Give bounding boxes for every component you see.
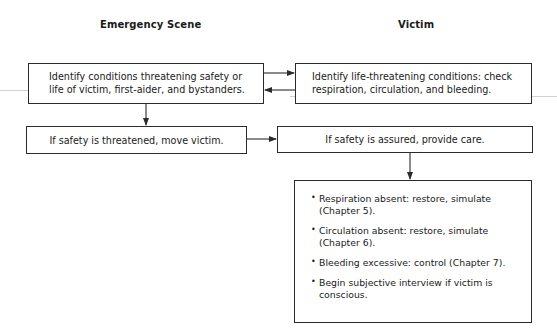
box-text-line: Identify conditions threatening safety o… [49, 70, 263, 83]
care-step-line: Begin subjective interview if victim is [319, 277, 521, 289]
care-step-line: Respiration absent: restore, simulate [319, 193, 521, 205]
box-identify-life-threatening: Identify life-threatening conditions: ch… [295, 63, 532, 104]
bullet-icon: • [311, 256, 316, 268]
box-move-victim: If safety is threatened, move victim. [26, 126, 247, 154]
column-header-emergency-scene: Emergency Scene [100, 19, 201, 30]
box-text-line: Identify life-threatening conditions: ch… [312, 70, 531, 83]
care-step-item: • Circulation absent: restore, simulate … [311, 225, 521, 249]
care-step-line: Circulation absent: restore, simulate [319, 225, 521, 237]
care-step-item: • Bleeding excessive: control (Chapter 7… [311, 257, 521, 269]
box-care-steps: • Respiration absent: restore, simulate … [294, 180, 532, 323]
care-step-line: (Chapter 6). [319, 237, 521, 249]
bullet-icon: • [311, 276, 316, 288]
care-step-item: • Begin subjective interview if victim i… [311, 277, 521, 301]
box-provide-care: If safety is assured, provide care. [277, 126, 533, 153]
bullet-icon: • [311, 192, 316, 204]
scan-line [0, 90, 30, 91]
care-step-line: conscious. [319, 289, 521, 301]
column-header-victim: Victim [398, 19, 434, 30]
box-text-line: life of victim, first-aider, and bystand… [49, 83, 263, 96]
care-step-line: (Chapter 5). [319, 205, 521, 217]
bullet-icon: • [311, 224, 316, 236]
box-text: If safety is threatened, move victim. [49, 134, 223, 147]
box-text-line: respiration, circulation, and bleeding. [312, 83, 531, 96]
box-identify-conditions: Identify conditions threatening safety o… [28, 63, 264, 104]
care-step-item: • Respiration absent: restore, simulate … [311, 193, 521, 217]
box-text: If safety is assured, provide care. [325, 133, 484, 146]
care-step-line: Bleeding excessive: control (Chapter 7). [319, 257, 521, 269]
